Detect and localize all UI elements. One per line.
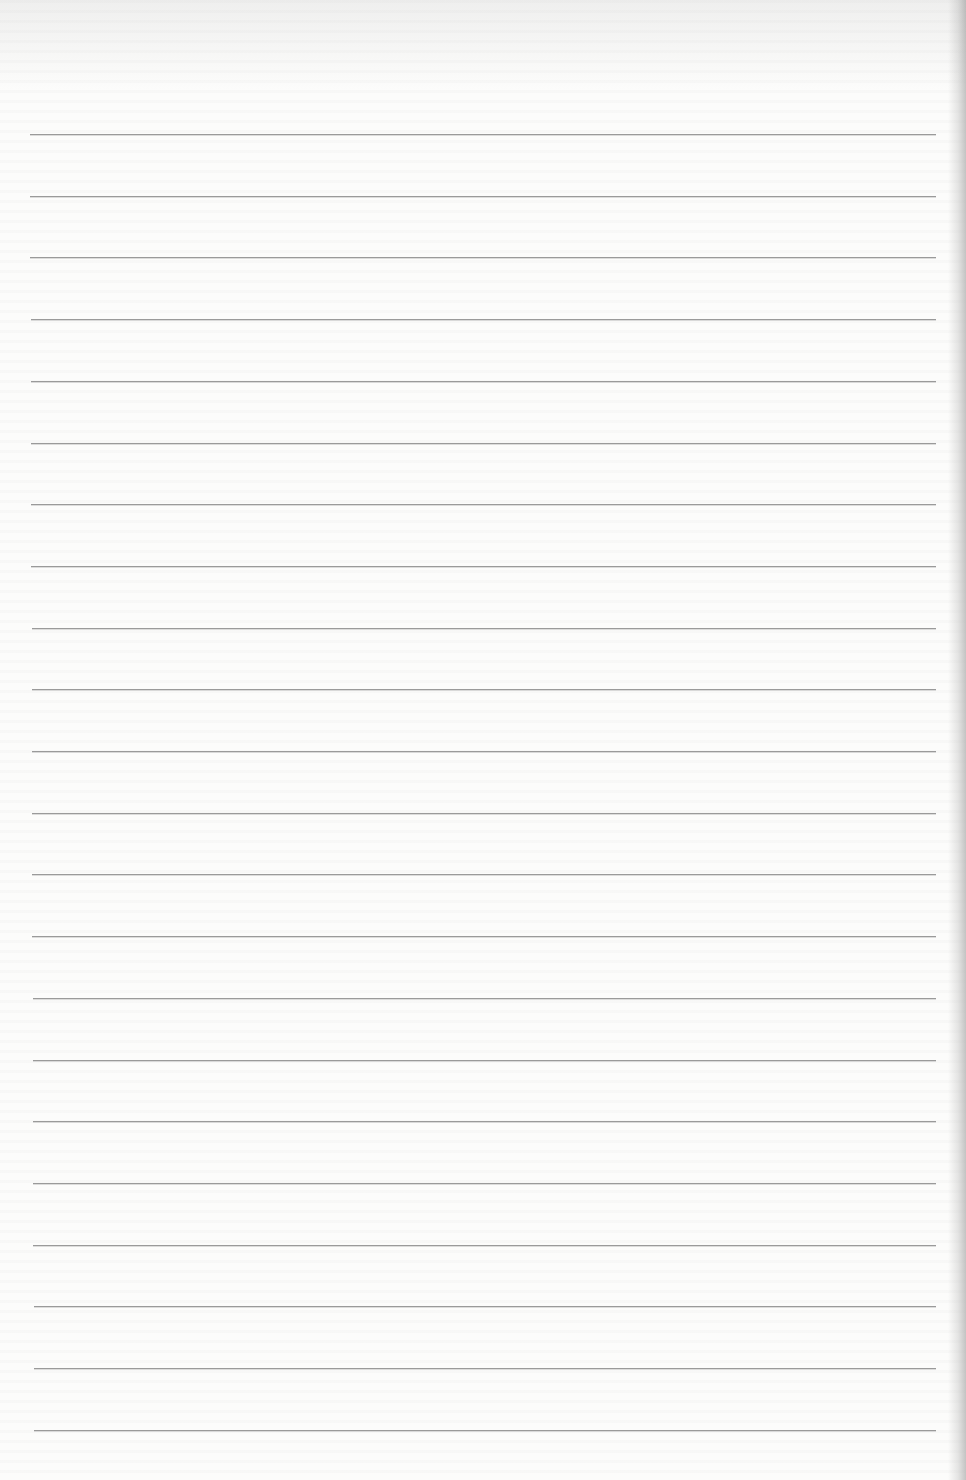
ruled-line (30, 134, 936, 135)
bleed-through-texture (0, 0, 966, 1480)
ruled-line (33, 1245, 936, 1246)
ruled-line (30, 196, 936, 197)
ruled-line (32, 936, 936, 937)
ruled-line (32, 751, 936, 752)
ruled-line (31, 443, 936, 444)
ruled-line (33, 1121, 936, 1122)
ruled-line (31, 566, 936, 567)
ruled-line (32, 689, 936, 690)
lined-paper-page (0, 0, 966, 1480)
ruled-line (34, 1368, 936, 1369)
ruled-line (33, 1060, 936, 1061)
ruled-line (31, 504, 936, 505)
ruled-line (33, 1183, 936, 1184)
ruled-line (31, 381, 936, 382)
ruled-line (32, 813, 936, 814)
ruled-line (33, 998, 936, 999)
ruled-line (34, 1430, 936, 1431)
ruled-line (31, 319, 936, 320)
ruled-line (32, 628, 936, 629)
ruled-line (34, 1306, 936, 1307)
ruled-line (32, 874, 936, 875)
ruled-line (30, 257, 936, 258)
